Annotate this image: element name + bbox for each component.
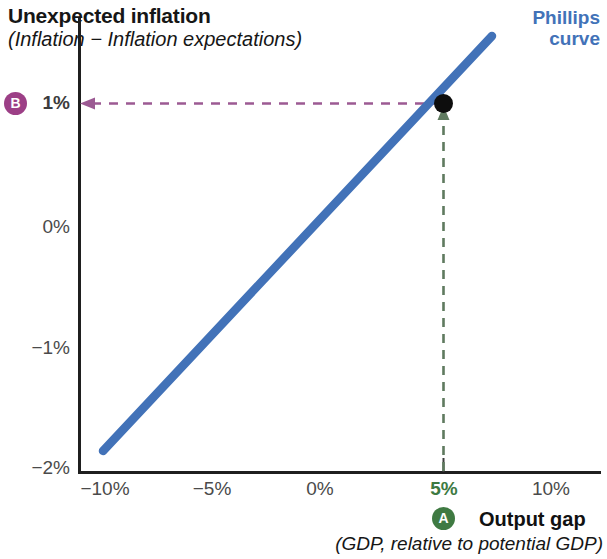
chart-figure: Unexpected inflation (Inflation − Inflat… [0, 0, 607, 559]
marker-badge-b: B [4, 92, 27, 115]
x-tick-label-neg10: −10% [55, 478, 155, 500]
x-axis-title: Output gap [479, 508, 586, 531]
y-tick-label-0: 0% [0, 216, 70, 238]
phillips-curve-line [103, 36, 492, 451]
plot-canvas [0, 0, 607, 559]
guide-horizontal-arrowhead [80, 98, 95, 110]
x-tick-label-neg5: −5% [162, 478, 262, 500]
x-tick-label-5: 5% [394, 478, 494, 500]
x-axis-caption: (GDP, relative to potential GDP) [207, 533, 603, 555]
y-tick-label-neg2: −2% [0, 457, 70, 479]
x-tick-label-10: 10% [501, 478, 601, 500]
data-point-equilibrium [434, 94, 453, 113]
marker-badge-a: A [432, 507, 455, 530]
x-tick-label-0: 0% [270, 478, 370, 500]
y-tick-label-neg1: −1% [0, 337, 70, 359]
